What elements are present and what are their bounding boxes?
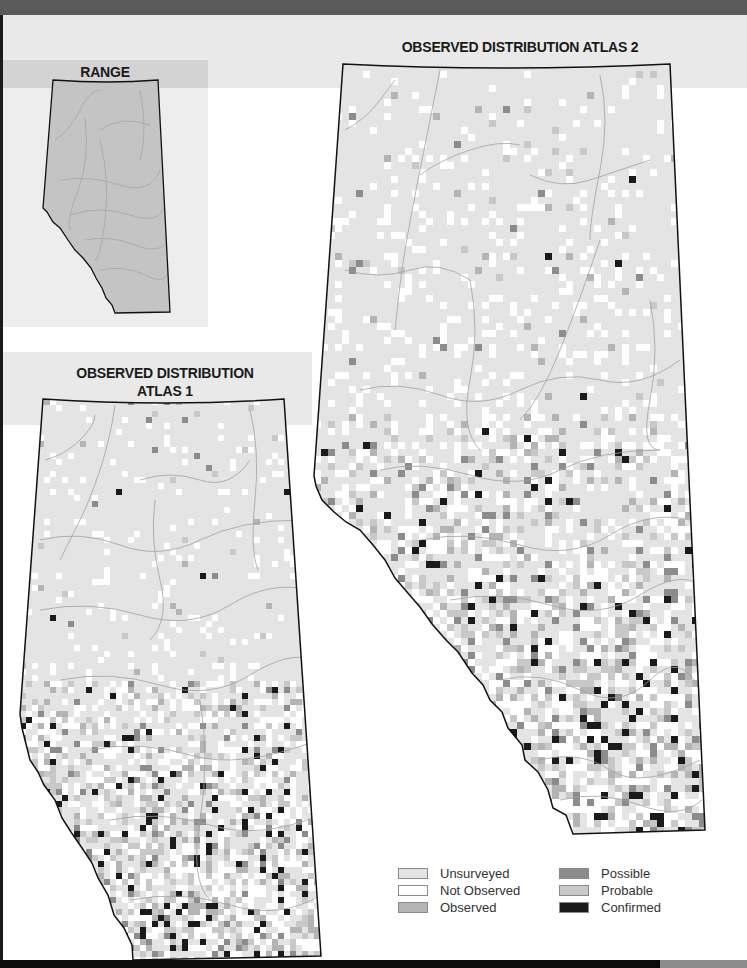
legend-item-possible: Possible bbox=[559, 865, 650, 881]
legend-swatch-probable bbox=[559, 885, 589, 896]
maps-canvas bbox=[0, 0, 747, 968]
atlas2-map bbox=[314, 64, 706, 841]
legend-label: Observed bbox=[440, 900, 496, 915]
legend-label: Possible bbox=[601, 866, 650, 881]
legend-item-unsurveyed: Unsurveyed bbox=[398, 865, 509, 881]
legend: Unsurveyed Not Observed Observed Possibl… bbox=[398, 865, 718, 917]
legend-label: Probable bbox=[601, 883, 653, 898]
atlas2-title: OBSERVED DISTRIBUTION ATLAS 2 bbox=[330, 38, 710, 56]
legend-label: Confirmed bbox=[601, 900, 661, 915]
legend-swatch-observed bbox=[398, 902, 428, 913]
atlas1-title: OBSERVED DISTRIBUTION ATLAS 1 bbox=[30, 364, 300, 400]
bottom-bar-accent bbox=[660, 960, 747, 968]
legend-item-confirmed: Confirmed bbox=[559, 899, 661, 915]
legend-item-observed: Observed bbox=[398, 899, 496, 915]
legend-swatch-possible bbox=[559, 868, 589, 879]
legend-label: Not Observed bbox=[440, 883, 520, 898]
bottom-bar bbox=[0, 960, 660, 968]
atlas1-title-line1: OBSERVED DISTRIBUTION bbox=[30, 364, 300, 382]
legend-item-not-observed: Not Observed bbox=[398, 882, 520, 898]
atlas1-title-line2: ATLAS 1 bbox=[30, 382, 300, 400]
legend-swatch-not-observed bbox=[398, 885, 428, 896]
range-title: RANGE bbox=[50, 63, 160, 81]
legend-swatch-unsurveyed bbox=[398, 868, 428, 879]
legend-item-probable: Probable bbox=[559, 882, 653, 898]
atlas1-map bbox=[20, 399, 326, 963]
legend-label: Unsurveyed bbox=[440, 866, 509, 881]
range-map bbox=[43, 80, 170, 313]
legend-swatch-confirmed bbox=[559, 902, 589, 913]
